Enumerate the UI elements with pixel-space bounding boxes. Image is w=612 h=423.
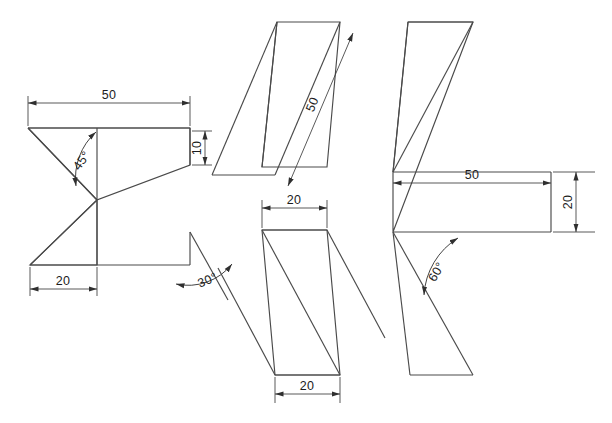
bracket-left-slant — [393, 22, 408, 172]
figure-slanted-strip-upper: 50 — [212, 22, 353, 186]
angle-label-60: 60° — [426, 260, 448, 284]
dim-label-20-bottom: 20 — [56, 274, 71, 288]
strip-lower-left-slant — [262, 230, 340, 375]
dim-label-10: 10 — [190, 141, 204, 156]
zigzag-tail-diagonal — [190, 232, 228, 300]
bracket-lower-slant-left — [393, 232, 473, 375]
dim-label-20-vertical: 20 — [561, 195, 575, 210]
zigzag-outline — [28, 128, 190, 265]
dim-label-50-top: 50 — [102, 88, 117, 102]
dim-label-20-strip-bottom: 20 — [300, 379, 315, 393]
dim-label-50-bracket: 50 — [465, 168, 480, 182]
bracket-lower-slant-far — [393, 232, 410, 375]
strip-upper-edge-slant-2 — [212, 22, 277, 175]
strip-upper-fold-line — [262, 22, 277, 167]
strip-upper-outline — [262, 22, 340, 167]
figure-zigzag-profile: 50 10 20 45° 30° — [28, 88, 232, 300]
figure-slanted-strip-lower: 20 20 — [218, 193, 385, 403]
zigzag-diagonal-lower — [30, 200, 97, 265]
angle-label-30: 30° — [196, 270, 220, 290]
angle-label-45: 45° — [70, 149, 93, 173]
dim-label-20-strip-top: 20 — [287, 193, 302, 207]
drawing-sheet: 50 10 20 45° 30° — [0, 0, 612, 423]
dim-label-50-diagonal: 50 — [303, 95, 322, 114]
bracket-inner-slant — [393, 22, 473, 172]
figure-angled-bracket: 50 20 60° — [393, 22, 595, 375]
dim-line-50-diagonal — [288, 33, 353, 186]
technical-drawing-canvas: 50 10 20 45° 30° — [0, 0, 612, 423]
